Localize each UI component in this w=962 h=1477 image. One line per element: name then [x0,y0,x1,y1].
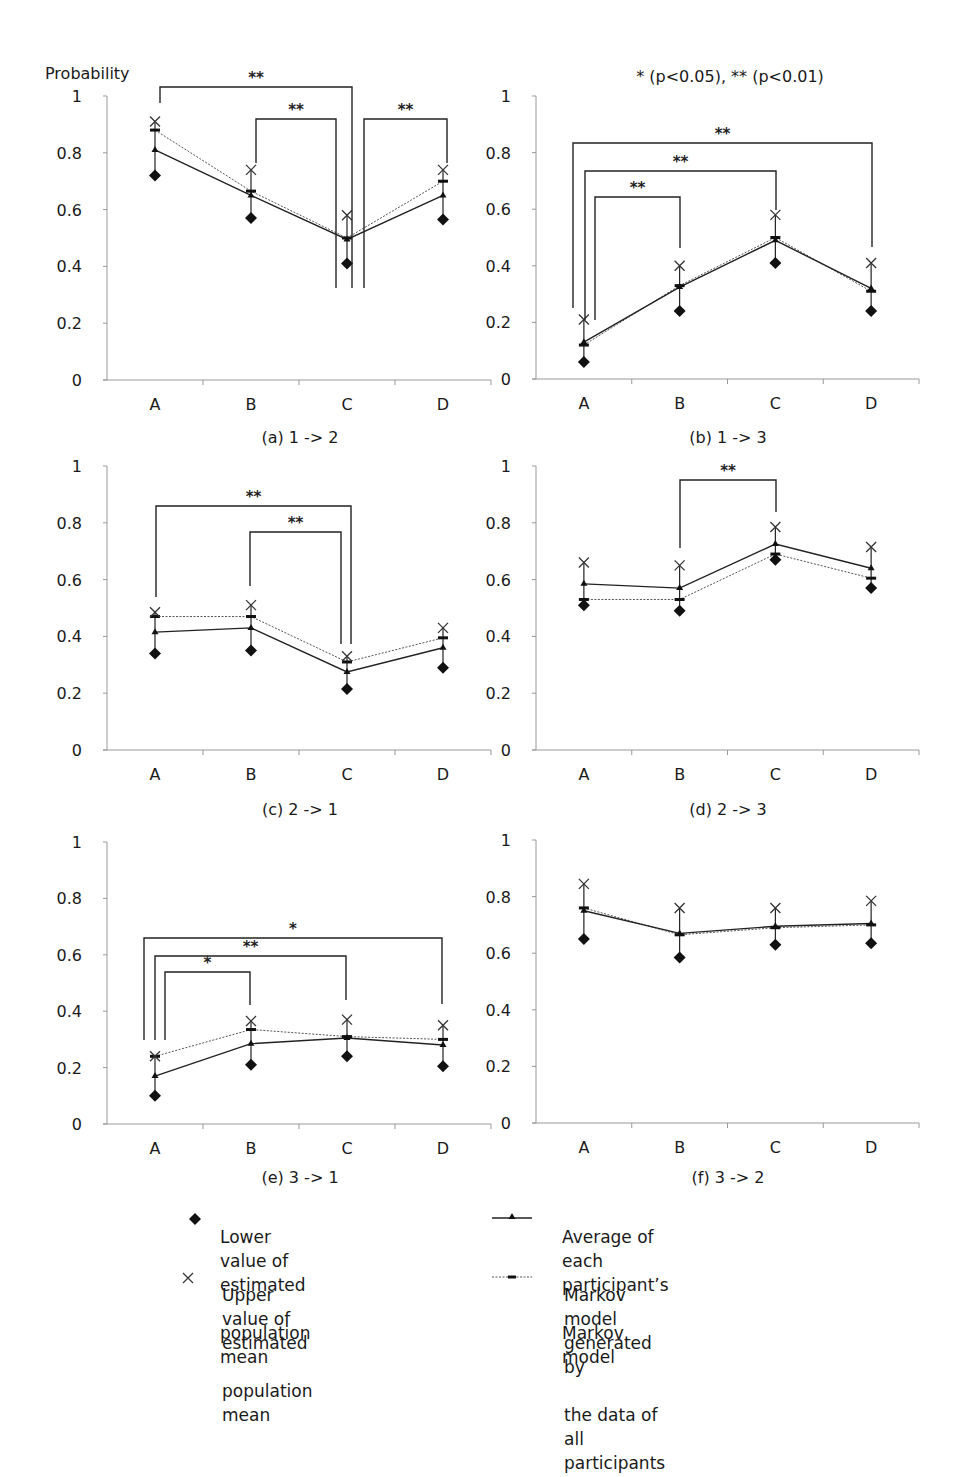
y-tick-label: 1 [501,831,511,850]
y-tick-label: 0 [72,741,82,760]
legend-label-upper: Upper value of estimated population mean [222,1259,312,1451]
panel-title: (a) 1 -> 2 [261,428,338,447]
significance-label: ** [673,153,689,171]
panel-title: (e) 3 -> 1 [261,1168,338,1187]
lower-diamond-marker [341,1050,353,1062]
y-tick-label: 0.4 [57,1002,82,1021]
series-avg-line [155,628,443,672]
lower-diamond-marker [245,212,257,224]
x-tick-label: B [674,1138,685,1157]
y-tick-label: 0.6 [486,200,511,219]
x-tick-label: C [341,1139,352,1158]
lower-diamond-marker [149,170,161,182]
x-tick-label: A [578,394,589,413]
significance-note: * (p<0.05), ** (p<0.01) [636,67,824,86]
avg-triangle-marker [152,628,159,634]
x-tick-label: C [770,394,781,413]
y-tick-label: 0 [501,1114,511,1133]
lower-diamond-marker [674,305,686,317]
y-tick-label: 0 [501,370,511,389]
x-tick-label: C [770,765,781,784]
y-tick-label: 0.8 [486,144,511,163]
lower-diamond-marker [865,937,877,949]
significance-label: ** [630,179,646,197]
legend-diamond-icon [189,1207,201,1231]
legend-label-all: Markov model generated by the data of al… [564,1259,665,1477]
y-tick-label: 0.4 [486,1001,511,1020]
all-dash-marker [246,1028,256,1031]
y-tick-label: 1 [501,457,511,476]
series-all-line [584,238,871,346]
all-dash-marker [438,180,448,183]
x-tick-label: D [437,765,449,784]
y-tick-label: 0.6 [57,201,82,220]
significance-label: ** [248,69,264,87]
chart-panel-a: 00.20.40.60.81ABCD(a) 1 -> 2****** [57,69,491,447]
x-tick-label: C [341,395,352,414]
legend-solid-line-triangle-icon [492,1204,532,1228]
significance-bracket [160,87,352,288]
series-avg-line [584,240,871,342]
x-tick-label: B [674,394,685,413]
chart-panel-b: 00.20.40.60.81ABCD(b) 1 -> 3****** [486,87,919,447]
all-dash-marker [438,636,448,639]
lower-diamond-marker [674,951,686,963]
all-dash-marker [438,1038,448,1041]
x-tick-label: A [150,395,161,414]
x-tick-label: D [865,1138,877,1157]
significance-label: ** [288,101,304,119]
y-tick-label: 0 [72,1115,82,1134]
legend-x-icon [182,1266,194,1290]
y-tick-label: 0.2 [486,313,511,332]
y-tick-label: 0.6 [486,571,511,590]
y-tick-label: 1 [72,87,82,106]
x-tick-label: B [246,395,257,414]
x-tick-label: D [437,395,449,414]
lower-diamond-marker [578,933,590,945]
panel-title: (d) 2 -> 3 [689,800,766,819]
x-tick-label: C [770,1138,781,1157]
x-tick-label: B [246,1139,257,1158]
x-tick-label: B [246,765,257,784]
x-tick-label: A [578,1138,589,1157]
y-tick-label: 0.6 [57,571,82,590]
chart-panel-e: 00.20.40.60.81ABCD(e) 3 -> 1**** [57,833,491,1187]
significance-label: ** [288,514,304,532]
x-tick-label: A [150,765,161,784]
avg-triangle-marker [440,1041,447,1047]
significance-label: ** [398,101,414,119]
avg-triangle-marker [772,540,779,546]
lower-diamond-marker [245,645,257,657]
significance-bracket [595,197,680,320]
series-all-line [584,554,871,599]
all-dash-marker [150,129,160,132]
series-avg-line [155,150,443,239]
y-tick-label: 1 [72,833,82,852]
significance-bracket [144,938,442,1040]
panel-title: (b) 1 -> 3 [689,428,766,447]
avg-triangle-marker [248,624,255,630]
y-tick-label: 0.2 [57,1059,82,1078]
all-dash-marker [866,577,876,580]
y-tick-label: 0 [501,741,511,760]
panel-title: (f) 3 -> 2 [692,1168,765,1187]
lower-diamond-marker [769,257,781,269]
avg-triangle-marker [248,1040,255,1046]
y-tick-label: 0.6 [486,944,511,963]
chart-panels: 00.20.40.60.81ABCD(a) 1 -> 2******00.20.… [57,69,919,1187]
lower-diamond-marker [674,605,686,617]
series-all-line [155,130,443,238]
all-dash-marker [675,598,685,601]
x-tick-label: D [865,765,877,784]
x-tick-label: A [578,765,589,784]
series-all-line [155,1030,443,1057]
y-tick-label: 1 [72,457,82,476]
significance-bracket [680,480,776,548]
lower-diamond-marker [149,1090,161,1102]
lower-diamond-marker [769,939,781,951]
x-tick-label: C [341,765,352,784]
lower-diamond-marker [578,356,590,368]
significance-bracket [156,506,351,644]
significance-bracket [573,143,872,308]
all-dash-marker [342,660,352,663]
